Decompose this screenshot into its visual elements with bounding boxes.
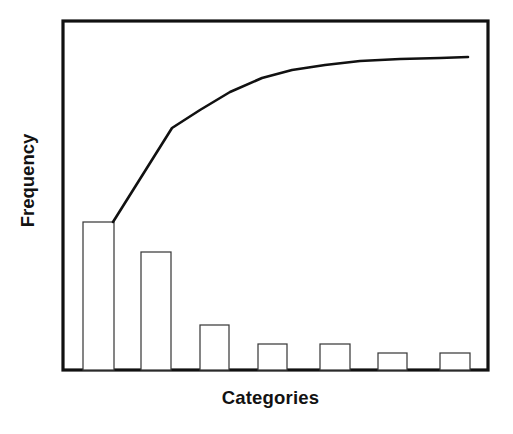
x-axis-title: Categories <box>222 387 320 408</box>
bar <box>258 344 287 370</box>
y-axis-title: Frequency <box>17 133 38 227</box>
bar <box>200 325 229 370</box>
bar <box>83 222 114 370</box>
chart-canvas: Frequency Categories <box>0 0 513 434</box>
bar <box>440 353 470 370</box>
pareto-chart: Frequency Categories <box>0 0 513 434</box>
bar <box>320 344 350 370</box>
bar <box>378 353 407 370</box>
bar <box>141 252 171 370</box>
